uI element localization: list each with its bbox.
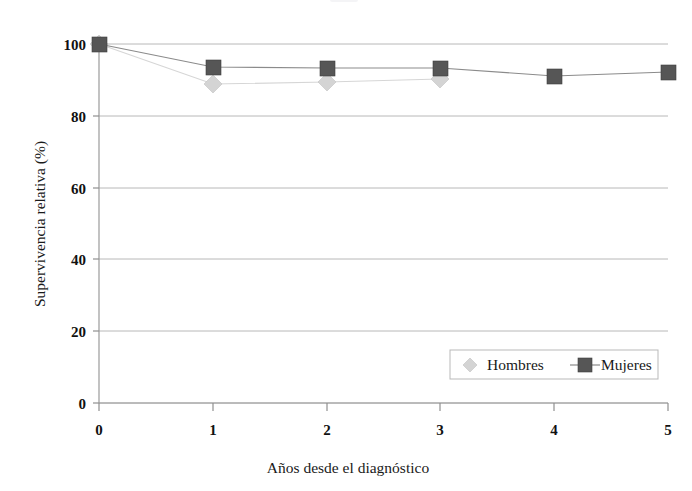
legend: Hombres Mujeres [450, 350, 658, 379]
y-tick-label-40: 40 [71, 252, 86, 268]
relative-survival-chart: 100 80 60 40 20 0 0 1 2 3 4 5 [0, 0, 692, 491]
y-tick-marks [93, 44, 99, 403]
x-axis-title: Años desde el diagnóstico [267, 459, 430, 476]
data-point-mujeres-3 [433, 61, 448, 76]
chart-canvas: 100 80 60 40 20 0 0 1 2 3 4 5 [0, 0, 692, 491]
legend-marker-mujeres-square [578, 358, 592, 372]
legend-label-hombres: Hombres [487, 356, 544, 373]
y-tick-label-100: 100 [64, 37, 87, 53]
x-tick-label-1: 1 [209, 422, 217, 438]
data-point-mujeres-4 [547, 69, 562, 84]
x-tick-label-5: 5 [664, 422, 672, 438]
y-tick-label-0: 0 [79, 396, 87, 412]
y-tick-label-20: 20 [71, 324, 86, 340]
x-tick-label-4: 4 [550, 422, 558, 438]
y-tick-labels: 100 80 60 40 20 0 [64, 37, 87, 412]
data-point-mujeres-2 [320, 61, 335, 76]
x-tick-label-3: 3 [436, 422, 444, 438]
legend-label-mujeres: Mujeres [601, 356, 652, 373]
x-tick-marks [99, 403, 668, 411]
x-tick-label-2: 2 [323, 422, 331, 438]
gridlines [99, 44, 668, 403]
series-lines [99, 44, 668, 84]
x-tick-label-0: 0 [95, 422, 103, 438]
data-point-mujeres-5 [661, 65, 676, 80]
y-tick-label-60: 60 [71, 181, 86, 197]
series-line-hombres [99, 44, 440, 84]
series-line-mujeres [99, 44, 668, 76]
y-axis-title: Supervivencia relativa (%) [31, 141, 49, 307]
data-point-hombres-1 [204, 75, 222, 93]
data-point-mujeres-1 [206, 60, 221, 75]
y-tick-label-80: 80 [71, 109, 86, 125]
x-tick-labels: 0 1 2 3 4 5 [95, 422, 672, 438]
data-point-mujeres-0 [92, 37, 107, 52]
axis-lines [99, 44, 668, 403]
